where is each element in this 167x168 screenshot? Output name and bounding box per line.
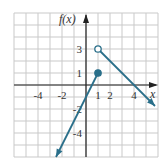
x-axis-label: x [149,87,156,101]
x-tick-label: 2 [107,89,113,101]
y-axis-arrow-icon [83,14,89,23]
y-tick-label: 3 [77,43,83,55]
y-axis-label: f(x) [59,12,76,26]
closed-dot-icon [95,70,101,76]
y-tick-label: -4 [73,127,83,139]
open-dot-icon [95,46,101,52]
axes [14,14,158,157]
line-arrow-icon [56,148,62,157]
x-tick-label: 4 [131,89,137,101]
series [56,49,155,157]
piecewise-function-graph: -4-212431-2-4 f(x) x [0,0,167,168]
y-tick-label: 1 [77,67,83,79]
x-tick-label: -4 [33,89,43,101]
x-tick-label: -2 [57,89,66,101]
x-tick-label: 1 [95,89,101,101]
